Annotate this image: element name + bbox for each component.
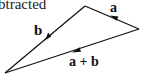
vector-a-label: a	[110, 1, 117, 15]
vector-b-label: b	[34, 23, 42, 37]
arrow-b-icon	[46, 33, 52, 40]
vector-diagram: btracted a b a + b	[0, 0, 141, 79]
vector-a-plus-b-label: a + b	[69, 55, 99, 69]
